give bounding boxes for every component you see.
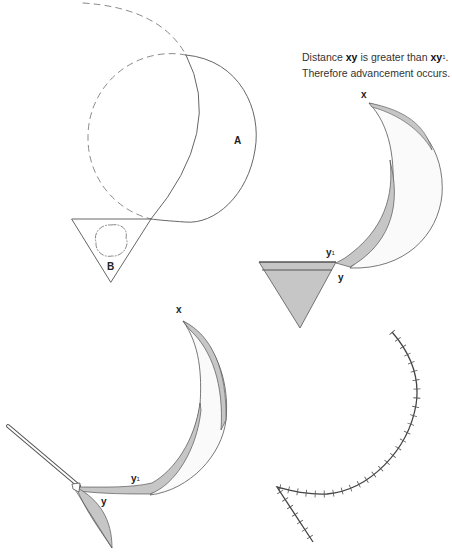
fig3-label-x: x [176, 305, 182, 315]
fig2-label-y1: y1 [326, 248, 335, 258]
caption-period: . [445, 51, 448, 63]
diagram-canvas [0, 0, 452, 560]
figure-2 [259, 103, 442, 328]
caption-text: is greater than [357, 51, 430, 63]
figure-1 [72, 3, 256, 282]
dashed-circle [88, 54, 186, 219]
dashed-arc-top [83, 3, 186, 55]
fig3-label-y: y [101, 497, 107, 507]
fig3-label-y1: y1 [131, 474, 140, 484]
figure-4 [277, 332, 417, 542]
instrument-hook [72, 483, 80, 492]
crescent-3-body [150, 321, 227, 495]
fig3-y1-sup: 1 [137, 476, 140, 482]
figure-3 [8, 321, 227, 548]
caption: Distance xy is greater than xy1. Therefo… [302, 49, 452, 81]
triangle-2 [259, 262, 336, 328]
caption-line-1: Distance xy is greater than xy1. [302, 49, 452, 65]
fig2-label-y: y [338, 273, 344, 283]
fig2-y1-sup: 1 [332, 250, 335, 256]
label-a: A [234, 136, 241, 146]
caption-xy1: xy [430, 51, 442, 63]
dashed-blob [95, 225, 127, 257]
caption-text: Distance [302, 51, 346, 63]
caption-xy: xy [346, 51, 358, 63]
fig2-label-x: x [361, 90, 367, 100]
hatched-arc [277, 332, 417, 542]
stick-instrument-inner [8, 426, 79, 486]
crescent-a-inner-arc [151, 55, 199, 219]
hatched-arc-ticks [277, 332, 417, 542]
triangle-b [72, 219, 151, 282]
caption-line-2: Therefore advancement occurs. [302, 65, 452, 81]
label-b: B [107, 262, 114, 272]
